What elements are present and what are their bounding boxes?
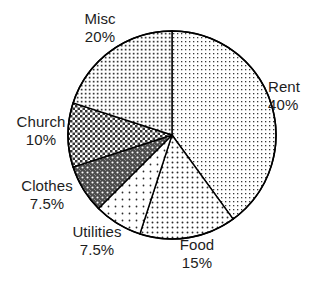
- slice-label-church-value: 10%: [4, 131, 78, 149]
- slice-label-misc-name: Misc: [62, 10, 138, 28]
- slice-label-food: Food 15%: [166, 236, 228, 271]
- slice-label-food-name: Food: [166, 236, 228, 254]
- pie-slices-group: [68, 31, 276, 239]
- slice-label-rent-name: Rent: [268, 78, 323, 96]
- slice-label-utilities: Utilities 7.5%: [54, 223, 140, 258]
- slice-label-food-value: 15%: [166, 254, 228, 272]
- slice-label-clothes: Clothes 7.5%: [6, 177, 88, 212]
- slice-label-rent-value: 40%: [268, 96, 323, 114]
- slice-label-misc: Misc 20%: [62, 10, 138, 45]
- slice-label-utilities-name: Utilities: [54, 223, 140, 241]
- slice-label-clothes-name: Clothes: [6, 177, 88, 195]
- slice-label-clothes-value: 7.5%: [6, 195, 88, 213]
- pie-chart-figure: Misc 20% Rent 40% Church 10% Clothes 7.5…: [0, 0, 323, 289]
- slice-label-rent: Rent 40%: [268, 78, 323, 113]
- slice-label-church-name: Church: [4, 113, 78, 131]
- slice-label-church: Church 10%: [4, 113, 78, 148]
- slice-label-misc-value: 20%: [62, 28, 138, 46]
- slice-label-utilities-value: 7.5%: [54, 241, 140, 259]
